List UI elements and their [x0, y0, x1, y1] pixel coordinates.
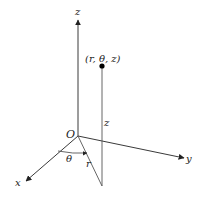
theta-arc: [58, 151, 87, 153]
z-axis-label: z: [74, 6, 81, 17]
height-label: z: [103, 117, 110, 128]
point-marker: [99, 63, 104, 68]
y-axis-label: y: [185, 153, 192, 164]
origin-label: O: [66, 128, 75, 141]
cylindrical-coordinates-diagram: z y x O (r, θ, z) z r θ: [0, 0, 201, 197]
y-axis: [78, 136, 184, 158]
x-axis-label: x: [15, 177, 21, 188]
angle-label: θ: [66, 153, 72, 164]
point-label: (r, θ, z): [85, 53, 121, 64]
